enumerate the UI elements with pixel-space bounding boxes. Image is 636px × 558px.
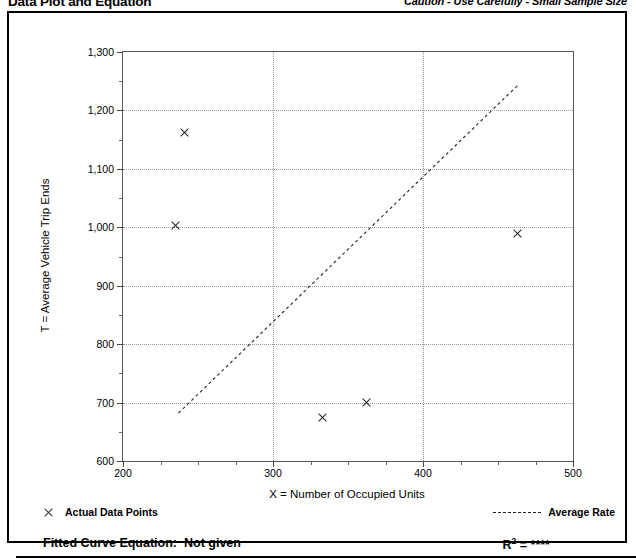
x-axis-minor-tick [311, 461, 312, 465]
x-axis-tick-label: 300 [264, 467, 282, 479]
x-axis-minor-tick [461, 461, 462, 465]
caution-note: Caution - Use Carefully - Small Sample S… [404, 0, 627, 7]
r2-equals: = [520, 538, 527, 552]
average-rate-line [123, 52, 573, 461]
x-axis-tick-label: 200 [114, 467, 132, 479]
chart-frame: T = Average Vehicle Trip Ends X = Number… [7, 11, 627, 543]
y-axis-tick-label: 1,300 [88, 46, 114, 58]
r2-exponent: 2 [512, 536, 517, 546]
y-axis-title: T = Average Vehicle Trip Ends [37, 51, 53, 460]
dashed-line-icon [493, 512, 541, 513]
x-axis-minor-tick [536, 461, 537, 465]
x-axis-minor-tick [386, 461, 387, 465]
x-axis-title: X = Number of Occupied Units [122, 488, 572, 500]
r2-stars: **** [531, 538, 550, 552]
y-axis-tick-label: 900 [96, 280, 114, 292]
y-axis-tick-label: 1,200 [88, 104, 114, 116]
y-axis-tick-label: 700 [96, 397, 114, 409]
y-axis-tick-label: 1,100 [88, 163, 114, 175]
fitted-curve-equation: Fitted Curve Equation: Not given [43, 536, 241, 550]
y-axis-tick-label: 1,000 [88, 221, 114, 233]
y-axis-tick-label: 600 [96, 455, 114, 467]
r2-label: R [502, 538, 511, 552]
x-axis-minor-tick [348, 461, 349, 465]
y-axis-tick-label: 800 [96, 338, 114, 350]
plot-area: 6007008009001,0001,1001,2001,30020030040… [122, 51, 574, 462]
x-axis-tick-label: 400 [414, 467, 432, 479]
chart-legend: Actual Data Points Average Rate [16, 504, 636, 526]
r-squared-value: R2 = **** [502, 536, 550, 552]
page-title: Data Plot and Equation [8, 0, 151, 9]
plot-canvas: 6007008009001,0001,1001,2001,30020030040… [123, 52, 573, 461]
x-axis-minor-tick [236, 461, 237, 465]
x-axis-tick-label: 500 [564, 467, 582, 479]
x-cross-icon [43, 507, 54, 518]
chart-footer: Fitted Curve Equation: Not given R2 = **… [16, 534, 636, 558]
x-axis-minor-tick [498, 461, 499, 465]
equation-value: Not given [184, 536, 241, 550]
x-axis-minor-tick [161, 461, 162, 465]
legend-label-data-points: Actual Data Points [65, 506, 158, 518]
equation-label: Fitted Curve Equation: [43, 536, 177, 550]
legend-label-average-rate: Average Rate [548, 506, 615, 518]
x-axis-minor-tick [198, 461, 199, 465]
